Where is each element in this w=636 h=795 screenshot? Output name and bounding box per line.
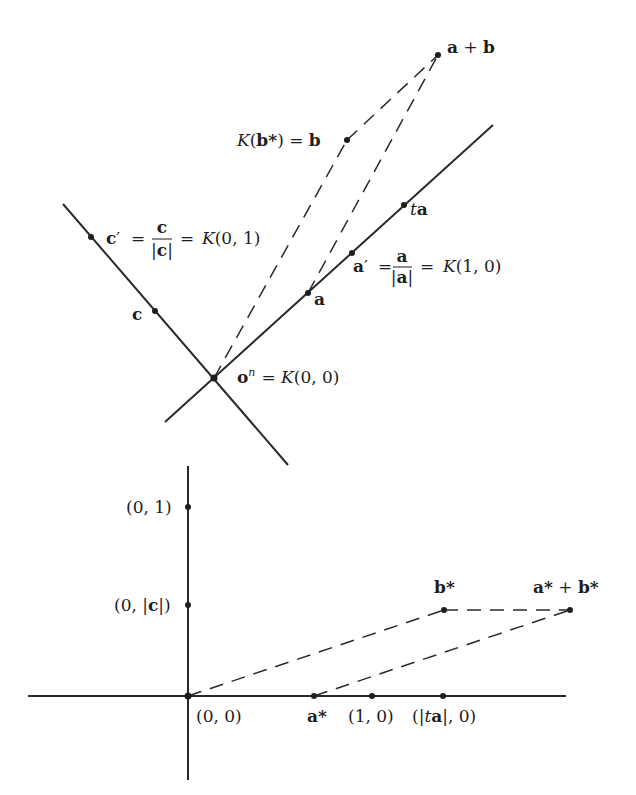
label-b-star: b* [434,577,455,597]
label-a-star: a* [307,706,327,726]
label-zero-one: (0, 1) [126,497,172,517]
svg-text:=: = [180,228,194,248]
dashed-origin-to-b-star [188,610,444,696]
label-a-prime: a′ = a |a| = K(1, 0) [353,246,501,287]
svg-text:a: a [396,246,407,266]
point-origin-lower [185,693,192,700]
dashed-b-to-a-plus-b [347,55,438,140]
point-b-star [441,607,447,613]
point-zero-one [185,504,191,510]
label-origin-upper: on= K(0, 0) [237,366,340,387]
upper-panel: a + b K(b*) = b ta a′ = a |a| = K(1, 0) … [63,37,501,465]
svg-text:=: = [131,228,145,248]
label-a-plus-b: a + b [447,37,495,57]
svg-text:|c|: |c| [151,240,173,260]
point-a-plus-b [435,52,441,58]
label-ta-zero: (|ta|, 0) [412,706,476,726]
lower-panel: (0, 1) (0, |c|) b* a* + b* (0, 0) a* (1,… [28,466,599,780]
point-a-star-plus-b-star [567,607,573,613]
label-c-prime: c′ = c |c| = K(0, 1) [106,217,260,260]
label-one-zero: (1, 0) [348,706,394,726]
label-a-star-plus-b-star: a* + b* [533,577,599,597]
point-a-star [311,693,317,699]
point-b [344,137,350,143]
label-a: a [314,289,325,309]
label-ta: ta [410,199,428,219]
svg-text:K(0, 1): K(0, 1) [201,228,260,248]
point-zero-c [185,602,191,608]
point-origin-on [211,375,218,382]
point-a [305,290,311,296]
point-c [152,308,158,314]
label-origin-lower: (0, 0) [196,706,242,726]
dashed-origin-to-b [214,140,347,378]
point-one-zero [369,693,375,699]
point-c-prime [88,234,94,240]
label-zero-c: (0, |c|) [114,595,171,615]
vector-diagram: a + b K(b*) = b ta a′ = a |a| = K(1, 0) … [0,0,636,795]
label-k-b-star-equals-b: K(b*) = b [236,130,321,150]
svg-text:|a|: |a| [391,267,413,287]
label-c: c [132,304,142,324]
svg-text:=: = [420,256,434,276]
svg-text:c′: c′ [106,228,120,248]
svg-text:K(1, 0): K(1, 0) [442,256,501,276]
point-ta [401,202,407,208]
dashed-a-star-to-sum [314,610,570,696]
svg-text:a′: a′ [353,256,368,276]
svg-text:c: c [157,217,167,237]
point-ta-zero [440,693,446,699]
